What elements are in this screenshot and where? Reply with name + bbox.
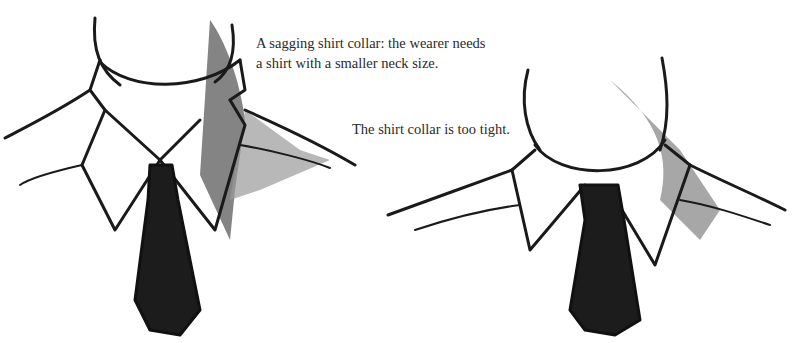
tight-collar-caption: The shirt collar is too tight. [352,119,552,139]
tight-collar-illustration [388,58,785,335]
caption-line: a shirt with a smaller neck size. [256,53,536,73]
sagging-collar-caption: A sagging shirt collar: the wearer needs… [256,33,536,73]
caption-line: A sagging shirt collar: the wearer needs [256,33,536,53]
